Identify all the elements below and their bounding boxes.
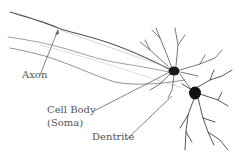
cell-body-label: Cell Body bbox=[47, 104, 96, 116]
soma-label: (Soma) bbox=[47, 117, 83, 129]
soma-2 bbox=[189, 87, 201, 100]
neuron-diagram: Axon Cell Body (Soma) Dentrite bbox=[0, 0, 239, 165]
axon-label: Axon bbox=[22, 69, 47, 81]
dendrites-2 bbox=[180, 70, 232, 150]
soma-1 bbox=[169, 67, 180, 76]
dentrite-label: Dentrite bbox=[92, 131, 134, 143]
